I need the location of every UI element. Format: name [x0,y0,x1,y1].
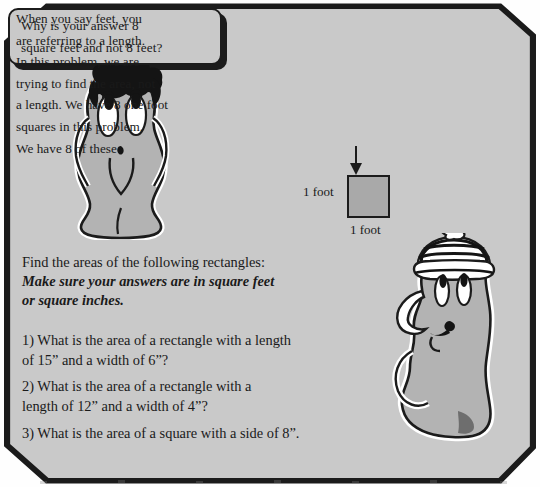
answer-bubble-text: When you say feet, you are referring to … [16,8,216,159]
square-left-label: 1 foot [303,184,334,200]
worksheet-page: Why is your answer 8 square feet and not… [0,0,540,487]
square-bottom-label: 1 foot [350,222,381,238]
question-3-line-1: 3) What is the area of a square with a s… [22,424,374,444]
down-arrow-icon [348,146,364,176]
instruction-line: Find the areas of the following rectangl… [22,253,380,272]
emphasis-note-line-2: or square inches. [22,291,380,310]
answer-bubble-line-2: are referring to a length. [16,30,216,52]
scan-artifacts [0,478,540,487]
answer-bubble-line-4: trying to find the area, not [16,73,216,95]
question-1-line-1: 1) What is the area of a rectangle with … [22,331,374,351]
question-1: 1) What is the area of a rectangle with … [22,331,374,370]
question-3: 3) What is the area of a square with a s… [22,424,374,444]
worksheet-body: Find the areas of the following rectangl… [22,253,380,310]
answer-bubble-line-7: We have 8 of these [16,138,216,160]
one-foot-square [347,175,390,218]
emphasis-note-line-1: Make sure your answers are in square fee… [22,272,380,291]
answer-bubble-line-1: When you say feet, you [16,8,216,30]
answer-bubble-line-5: a length. We have 8 one foot [16,94,216,116]
emphasis-note: Make sure your answers are in square fee… [22,272,380,310]
question-2-line-2: length of 12” and a width of 4”? [22,397,312,417]
question-2: 2) What is the area of a rectangle with … [22,377,312,416]
answer-bubble-line-6: squares in this problem. [16,116,216,138]
question-1-line-2: of 15” and a width of 6”? [22,351,374,371]
question-2-line-1: 2) What is the area of a rectangle with … [22,377,312,397]
answer-bubble-line-3: In this problem, we are [16,51,216,73]
blob-character-right [388,233,520,453]
